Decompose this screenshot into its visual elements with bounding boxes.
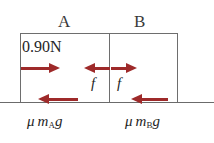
gravity-symbol-a: g [55,113,63,129]
block-a-label: A [58,13,70,30]
internal-friction-label-b: f [117,76,121,91]
box-top-edge [20,33,178,34]
mass-symbol-b: m [136,113,147,129]
ground-line [0,102,214,103]
gravity-symbol-b: g [152,113,160,129]
box-right-edge [177,33,178,103]
mass-symbol-a: m [38,113,49,129]
mu-symbol-a: μ [27,113,35,129]
internal-friction-label-a: f [91,76,95,91]
mu-symbol-b: μ [125,113,133,129]
block-b-label: B [134,13,145,30]
physics-free-body-diagram: A B 0.90N f f μmAg μmBg [0,0,214,143]
ground-friction-label-b: μmBg [125,114,160,130]
applied-force-label: 0.90N [22,39,62,55]
ground-friction-label-a: μmAg [27,114,62,130]
